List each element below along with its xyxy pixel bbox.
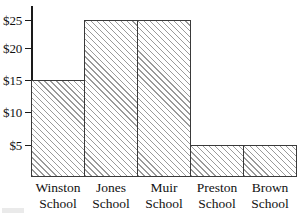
bar-preston (190, 145, 244, 177)
x-label-preston-line1: Preston (187, 180, 247, 196)
x-label-muir: Muir School (134, 180, 194, 211)
x-label-winston-line2: School (28, 196, 88, 212)
x-label-winston: Winston School (28, 180, 88, 211)
x-label-jones-line2: School (81, 196, 141, 212)
bar-jones (84, 20, 138, 177)
x-label-preston: Preston School (187, 180, 247, 211)
x-label-muir-line1: Muir (134, 180, 194, 196)
bar-muir (137, 20, 191, 177)
x-label-preston-line2: School (187, 196, 247, 212)
x-label-brown-line1: Brown (240, 180, 298, 196)
x-label-winston-line1: Winston (28, 180, 88, 196)
bar-winston (31, 80, 85, 177)
bar-chart: $25 $20 $15 $10 $5 Winston School Jones … (0, 0, 298, 216)
bar-brown (243, 145, 297, 177)
x-label-jones: Jones School (81, 180, 141, 211)
x-label-brown: Brown School (240, 180, 298, 211)
x-label-muir-line2: School (134, 196, 194, 212)
x-label-jones-line1: Jones (81, 180, 141, 196)
page-artifact (2, 208, 24, 213)
x-label-brown-line2: School (240, 196, 298, 212)
